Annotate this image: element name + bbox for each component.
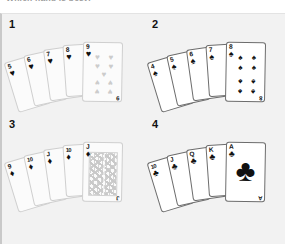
spades-icon: ♠: [251, 87, 255, 95]
card-fan-3: 9 ♦ 10 ♦ J ♦ 10 ♦ J ♦ J: [18, 130, 144, 222]
hearts-icon: ♥: [109, 54, 114, 62]
hearts-icon: ♥: [9, 68, 17, 78]
spades-icon: ♠: [238, 63, 242, 71]
figure-panel: 1 5 ♥ 6 ♥ 7 ♥ 8 ♥ 9 ♥ ♥: [0, 13, 285, 244]
card-rank-inverted: 8: [259, 95, 262, 101]
hearts-icon: ♥: [95, 63, 100, 71]
clubs-icon: ♣: [152, 168, 160, 178]
hearts-icon: ♥: [47, 57, 54, 67]
spades-icon: ♠: [238, 54, 242, 62]
figure-caption-text: Which hand is best?: [6, 0, 92, 3]
court-card-artwork: [88, 152, 118, 196]
card-rank-inverted: J: [116, 195, 119, 201]
hand-group-2: 2 4 ♠ 5 ♠ 6 ♠ 7 ♠ 8 ♠ ♠: [145, 14, 285, 129]
spades-icon: ♠: [171, 62, 178, 72]
hearts-icon: ♥: [95, 78, 100, 86]
card-rank-inverted: 9: [116, 95, 119, 101]
hearts-icon: ♥: [66, 53, 72, 62]
hand-number-2: 2: [152, 18, 158, 30]
card-fan-1: 5 ♥ 6 ♥ 7 ♥ 8 ♥ 9 ♥ ♥ ♥ ♥: [18, 30, 144, 122]
hand-group-1: 1 5 ♥ 6 ♥ 7 ♥ 8 ♥ 9 ♥ ♥: [2, 14, 144, 129]
clubs-icon: ♣: [229, 150, 235, 159]
pip-field: ♠ ♠ ♠ ♠ ♠ ♠ ♠ ♠: [233, 54, 261, 95]
spades-icon: ♠: [152, 69, 159, 79]
card-fan-4: 10 ♣ J ♣ Q ♣ K ♣ A ♣ ♣ A: [161, 130, 285, 222]
hand-number-3: 3: [9, 118, 15, 130]
clubs-icon: ♣: [171, 162, 179, 172]
hearts-icon: ♥: [102, 70, 107, 78]
clubs-icon: ♣: [190, 157, 197, 167]
hearts-icon: ♥: [28, 62, 35, 72]
card-rank-inverted: A: [258, 195, 262, 201]
hand-group-3: 3 9 ♦ 10 ♦ J ♦ 10 ♦ J ♦ J: [2, 114, 144, 229]
clubs-icon-large: ♣: [235, 156, 255, 186]
playing-card-exposed[interactable]: A ♣ ♣ A: [225, 142, 266, 203]
spades-icon: ♠: [252, 54, 256, 62]
hearts-icon: ♥: [95, 87, 100, 95]
figure-caption: Which hand is best?: [0, 0, 285, 13]
diamonds-icon: ♦: [66, 153, 71, 162]
hand-group-4: 4 10 ♣ J ♣ Q ♣ K ♣ A ♣ ♣ A: [145, 114, 285, 229]
spades-icon: ♠: [190, 57, 196, 67]
diamonds-icon: ♦: [28, 162, 34, 172]
spades-icon: ♠: [209, 53, 214, 62]
spades-icon: ♠: [238, 87, 242, 95]
clubs-icon: ♣: [209, 153, 216, 162]
hand-number-1: 1: [9, 18, 15, 30]
playing-card-exposed[interactable]: 8 ♠ ♠ ♠ ♠ ♠ ♠ ♠ ♠ ♠ 8: [225, 42, 266, 103]
hearts-icon: ♥: [95, 54, 100, 62]
diamonds-icon: ♦: [47, 157, 53, 167]
hearts-icon: ♥: [108, 78, 113, 86]
spades-icon: ♠: [251, 78, 255, 86]
hand-number-4: 4: [152, 118, 158, 130]
spades-icon: ♠: [252, 64, 256, 72]
pip-field: ♥ ♥ ♥ ♥ ♥ ♥ ♥ ♥ ♥: [90, 54, 118, 95]
playing-card-exposed[interactable]: J ♦ J: [82, 142, 123, 203]
diamonds-icon: ♦: [9, 169, 16, 179]
hearts-icon: ♥: [108, 87, 113, 95]
playing-card-exposed[interactable]: 9 ♥ ♥ ♥ ♥ ♥ ♥ ♥ ♥ ♥ ♥ 9: [82, 42, 123, 103]
card-fan-2: 4 ♠ 5 ♠ 6 ♠ 7 ♠ 8 ♠ ♠ ♠ ♠: [161, 30, 285, 122]
hearts-icon: ♥: [108, 63, 113, 71]
spades-icon: ♠: [238, 77, 242, 85]
